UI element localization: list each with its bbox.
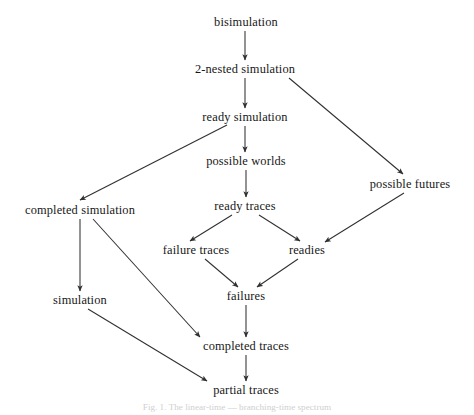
node-ready_traces: ready traces xyxy=(214,200,275,212)
figure-linear-time-branching-time-spectrum: bisimulation2-nested simulationready sim… xyxy=(0,0,474,415)
edge-possible_futures-to-readies xyxy=(325,193,404,242)
node-completed_simulation: completed simulation xyxy=(25,204,135,216)
edge-readies-to-failures xyxy=(257,259,298,287)
node-bisimulation: bisimulation xyxy=(214,16,278,28)
node-failures: failures xyxy=(227,290,265,302)
edge-completed_simulation-to-completed_traces xyxy=(93,219,200,337)
node-failure_traces: failure traces xyxy=(163,244,229,256)
edge-two_nested_simulation-to-possible_futures xyxy=(289,78,403,174)
node-possible_futures: possible futures xyxy=(370,178,451,190)
edge-ready_traces-to-readies xyxy=(259,215,300,241)
edge-failure_traces-to-failures xyxy=(205,259,238,287)
node-ready_simulation: ready simulation xyxy=(202,111,287,123)
node-two_nested_simulation: 2-nested simulation xyxy=(195,63,295,75)
edge-ready_simulation-to-completed_simulation xyxy=(80,125,227,200)
node-possible_worlds: possible worlds xyxy=(206,155,286,167)
node-readies: readies xyxy=(289,244,325,256)
figure-caption: Fig. 1. The linear-time — branching-time… xyxy=(0,402,474,412)
node-partial_traces: partial traces xyxy=(213,384,279,396)
node-completed_traces: completed traces xyxy=(203,340,289,352)
edge-simulation-to-partial_traces xyxy=(88,309,207,381)
edge-ready_traces-to-failure_traces xyxy=(190,215,232,241)
node-simulation: simulation xyxy=(53,294,107,306)
